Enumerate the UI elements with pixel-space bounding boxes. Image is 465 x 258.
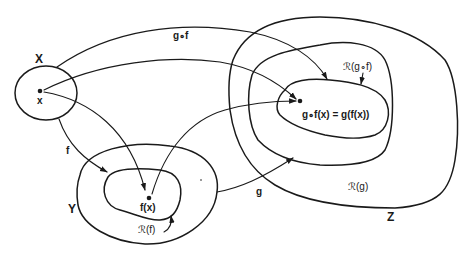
label-set-y: Y — [68, 203, 76, 215]
label-range-g: ℛ(g) — [348, 182, 368, 192]
point-x — [38, 89, 43, 94]
label-range-gf: ℛ(g∘f) — [343, 62, 372, 72]
point-gfx — [298, 99, 303, 104]
label-point-x: x — [37, 96, 43, 106]
point-fx — [147, 196, 152, 201]
label-range-f: ℛ(f) — [138, 225, 155, 235]
label-point-fx: f(x) — [140, 203, 156, 213]
arrow-fx-to-gfx — [152, 101, 296, 194]
label-arrow-g: g — [256, 187, 262, 197]
set-x-boundary — [15, 66, 77, 120]
arrow-x-to-fx — [44, 92, 145, 190]
label-arrow-gof: g∘f — [173, 31, 188, 41]
arrow-gof — [57, 27, 327, 79]
label-arrow-f: f — [66, 146, 69, 156]
label-set-x: X — [35, 53, 43, 65]
composition-diagram: X x f Y f(x) ℛ(f) g g∘f g∘f(x) = g(f(x))… — [0, 0, 465, 258]
pointer-range-gf — [361, 73, 363, 84]
arrow-g — [217, 158, 293, 192]
diagram-svg — [0, 0, 465, 258]
speck — [200, 179, 202, 181]
label-set-z: Z — [387, 211, 394, 223]
label-point-gfx: g∘f(x) = g(f(x)) — [302, 110, 369, 120]
